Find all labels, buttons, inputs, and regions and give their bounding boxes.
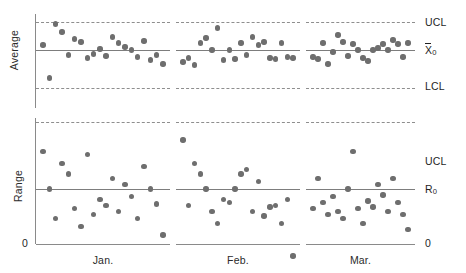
data-point [244, 52, 249, 57]
data-point [122, 44, 127, 49]
data-point [209, 47, 214, 52]
data-point [250, 209, 255, 214]
xbar-overline: X [425, 44, 432, 56]
data-point [97, 46, 102, 51]
average-panel-jan-center-line [36, 50, 170, 51]
data-point [110, 176, 115, 181]
data-point [380, 192, 385, 197]
r0-letter: R [425, 183, 433, 195]
data-point [380, 41, 385, 46]
data-point [279, 40, 284, 45]
range-panel-jan-base-line [36, 244, 170, 245]
average-panel-feb-ucl-line [176, 22, 300, 23]
data-point [85, 152, 90, 157]
range-panel-mar-center-line [306, 189, 415, 190]
data-point [390, 176, 395, 181]
data-point [103, 203, 108, 208]
data-point [350, 41, 355, 46]
data-point [279, 221, 284, 226]
data-point [160, 61, 165, 66]
data-point [335, 209, 340, 214]
average-panel-mar [306, 10, 415, 110]
xbar-subscript: 0 [432, 48, 436, 57]
data-point [135, 54, 140, 59]
data-point [315, 56, 320, 61]
average-panel-feb [176, 10, 300, 110]
data-point [325, 61, 330, 66]
average-panel-jan [36, 10, 170, 110]
data-point [116, 209, 121, 214]
month-label-feb: Feb. [176, 254, 300, 266]
data-point [66, 52, 71, 57]
data-point [180, 59, 185, 64]
data-point [365, 58, 370, 63]
data-point [400, 54, 405, 59]
data-point [192, 161, 197, 166]
data-point [53, 216, 58, 221]
data-point [244, 167, 249, 172]
range-panel-feb [176, 118, 300, 246]
data-point [285, 197, 290, 202]
range-panel-mar [306, 118, 415, 246]
data-point [141, 38, 146, 43]
average-panel-jan-lcl-line [36, 88, 170, 89]
data-point [59, 161, 64, 166]
data-point [66, 171, 71, 176]
data-point [370, 204, 375, 209]
range-panel-feb-ucl-line [176, 122, 300, 123]
average-panel-mar-ucl-line [306, 22, 415, 23]
data-point [203, 35, 208, 40]
data-point [198, 40, 203, 45]
data-point [395, 41, 400, 46]
data-point [350, 149, 355, 154]
data-point [330, 194, 335, 199]
month-label-mar: Mar. [306, 254, 415, 266]
data-point [103, 53, 108, 58]
data-point [221, 197, 226, 202]
range-panel-feb-base-line [176, 244, 300, 245]
data-point [405, 227, 410, 232]
data-point [47, 75, 52, 80]
data-point [310, 206, 315, 211]
data-point [135, 216, 140, 221]
data-point [148, 186, 153, 191]
data-point [238, 171, 243, 176]
data-point [129, 194, 134, 199]
data-point [186, 203, 191, 208]
data-point [232, 186, 237, 191]
data-point [273, 56, 278, 61]
data-point [85, 55, 90, 60]
data-point [110, 34, 115, 39]
average-lcl-label: LCL [425, 80, 445, 92]
data-point [141, 164, 146, 169]
data-point [335, 32, 340, 37]
data-point [227, 200, 232, 205]
data-point [91, 212, 96, 217]
data-point [186, 55, 191, 60]
data-point [59, 29, 64, 34]
data-point [355, 206, 360, 211]
range-panel-jan-ucl-line [36, 122, 170, 123]
data-point [116, 40, 121, 45]
data-point [330, 49, 335, 54]
data-point [72, 206, 77, 211]
data-point [148, 57, 153, 62]
r0-subscript: 0 [433, 187, 437, 196]
control-chart-figure: Average UCL X0 LCL Range 0 UCL R0 0 Jan.… [0, 0, 466, 273]
data-point [273, 203, 278, 208]
range-panel-feb-center-line [176, 189, 300, 190]
data-point [97, 197, 102, 202]
data-point [365, 198, 370, 203]
data-point [227, 47, 232, 52]
data-point [345, 186, 350, 191]
data-point [154, 201, 159, 206]
range-axis-title: Range [12, 156, 24, 216]
data-point [285, 54, 290, 59]
data-point [198, 171, 203, 176]
data-point [256, 42, 261, 47]
average-panel-mar-lcl-line [306, 88, 415, 89]
data-point [40, 149, 45, 154]
data-point [250, 34, 255, 39]
data-point [40, 42, 45, 47]
data-point [340, 216, 345, 221]
